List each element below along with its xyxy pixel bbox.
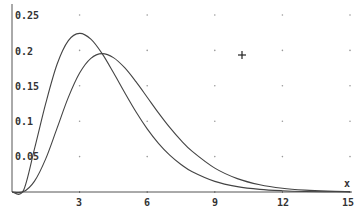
x-tick-label: 12 (277, 197, 289, 208)
x-tick-label: 15 (342, 197, 354, 208)
y-tick-label: 0.25 (15, 10, 39, 21)
x-axis-label: x (344, 178, 350, 189)
chart-plot-area: 0.25 0.2 0.15 0.1 0.05 3 6 9 12 15 x (0, 0, 362, 213)
x-tick-labels: 3 6 9 12 15 (76, 197, 354, 208)
x-tick-label: 3 (76, 197, 82, 208)
y-tick-labels: 0.25 0.2 0.15 0.1 0.05 (15, 10, 39, 162)
x-tick-label: 6 (144, 197, 150, 208)
y-tick-label: 0.15 (15, 81, 39, 92)
x-tick-label: 9 (212, 197, 218, 208)
y-tick-label: 0.05 (15, 151, 39, 162)
series-curve-2 (12, 54, 350, 193)
grid-dots (79, 14, 351, 193)
y-tick-label: 0.1 (15, 116, 33, 127)
y-tick-label: 0.2 (15, 46, 33, 57)
data-curves (12, 33, 350, 194)
cursor-cross-icon (238, 51, 246, 59)
